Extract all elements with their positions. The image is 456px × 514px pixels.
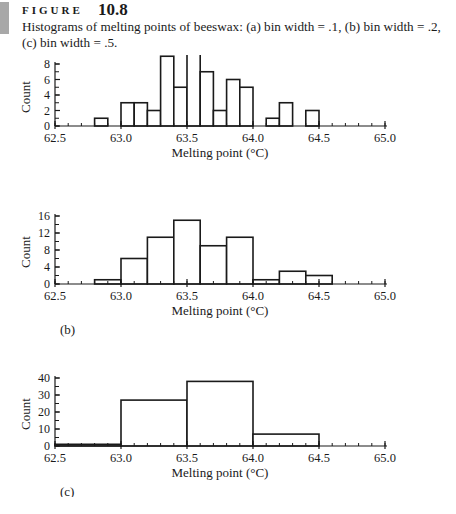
y-tick-label: 30	[38, 388, 50, 402]
histogram-bar	[147, 111, 160, 127]
x-tick-label: 63.0	[110, 131, 132, 145]
x-tick-label: 62.5	[44, 451, 66, 465]
histogram-bar	[174, 220, 200, 284]
histogram-bar	[174, 87, 187, 126]
panel-label: (c)	[60, 484, 74, 497]
x-tick-label: 64.0	[242, 451, 264, 465]
histogram-bar	[227, 80, 240, 127]
x-tick-label: 64.5	[308, 131, 330, 145]
margin-marker	[0, 2, 9, 34]
histogram-bar	[121, 103, 134, 126]
histogram-bar	[253, 434, 319, 446]
y-tick-label: 40	[38, 372, 50, 385]
y-axis-label: Count	[18, 236, 33, 268]
x-axis-label: Melting point (°C)	[172, 145, 269, 160]
histogram-bar	[161, 56, 174, 126]
x-tick-label: 64.0	[242, 289, 264, 303]
x-tick-label: 65.0	[374, 451, 396, 465]
histogram-bar	[213, 111, 226, 127]
histogram-bar	[187, 55, 200, 126]
histogram-bar	[147, 237, 173, 284]
x-tick-label: 64.0	[242, 131, 264, 145]
histogram-bar	[121, 259, 147, 285]
y-tick-label: 4	[44, 260, 50, 274]
panel-label: (b)	[60, 322, 75, 337]
histogram-bar	[266, 118, 279, 126]
y-tick-label: 6	[44, 73, 50, 87]
histogram-c: 010203040Count62.563.063.564.064.565.0Me…	[0, 372, 456, 497]
histogram-bar	[306, 111, 319, 127]
y-tick-label: 8	[44, 243, 50, 257]
x-tick-label: 63.5	[176, 451, 198, 465]
x-tick-label: 65.0	[374, 131, 396, 145]
x-tick-label: 65.0	[374, 289, 396, 303]
y-tick-label: 10	[38, 422, 50, 436]
histogram-bar	[227, 237, 253, 284]
figure-label: FIGURE	[22, 4, 83, 16]
histogram-a: 02468Count62.563.063.564.064.565.0Meltin…	[0, 55, 456, 160]
x-tick-label: 63.5	[176, 289, 198, 303]
y-tick-label: 4	[44, 88, 50, 102]
histogram-bar	[134, 103, 147, 126]
histogram-bar	[187, 381, 253, 446]
y-tick-label: 20	[38, 405, 50, 419]
x-tick-label: 63.5	[176, 131, 198, 145]
histogram-bar	[95, 118, 108, 126]
histogram-bar	[200, 246, 226, 284]
figure-caption: Histograms of melting points of beeswax:…	[22, 19, 454, 50]
x-tick-label: 62.5	[44, 131, 66, 145]
histogram-bar	[240, 87, 253, 126]
x-tick-label: 62.5	[44, 289, 66, 303]
y-tick-label: 2	[44, 104, 50, 118]
x-tick-label: 63.0	[110, 289, 132, 303]
figure-number: 10.8	[98, 0, 128, 20]
y-axis-label: Count	[18, 81, 33, 113]
histogram-bar	[121, 400, 187, 446]
x-axis-label: Melting point (°C)	[172, 465, 269, 480]
y-tick-label: 8	[44, 57, 50, 71]
y-tick-label: 12	[38, 226, 50, 240]
x-tick-label: 63.0	[110, 451, 132, 465]
x-tick-label: 64.5	[308, 451, 330, 465]
histogram-b: 0481216Count62.563.063.564.064.565.0Melt…	[0, 212, 456, 337]
y-axis-label: Count	[18, 398, 33, 430]
x-axis-label: Melting point (°C)	[172, 303, 269, 318]
histogram-bar	[279, 103, 292, 126]
histogram-bar	[200, 72, 213, 126]
y-tick-label: 16	[38, 212, 50, 223]
x-tick-label: 64.5	[308, 289, 330, 303]
